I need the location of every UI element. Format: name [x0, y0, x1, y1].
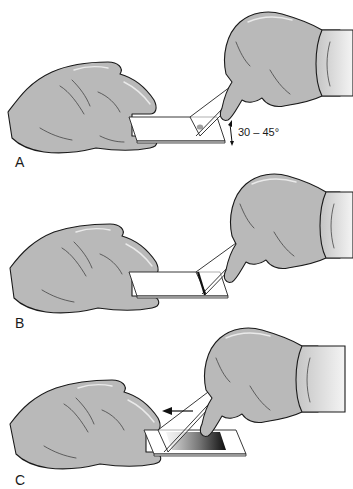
panel-a: 30 – 45° A	[0, 0, 353, 160]
right-hand-icon	[220, 12, 353, 120]
angle-annotation: 30 – 45°	[238, 127, 279, 138]
panel-a-illustration	[0, 0, 353, 160]
panel-c: C	[0, 320, 353, 489]
right-hand-icon	[200, 328, 345, 436]
left-hand-icon	[10, 380, 161, 469]
angle-arrow-icon	[228, 120, 234, 146]
left-hand-icon	[8, 62, 157, 153]
right-hand-icon	[224, 174, 353, 282]
panel-b: B	[0, 160, 353, 320]
panel-label-c: C	[15, 473, 25, 487]
left-hand-icon	[10, 224, 159, 313]
panel-b-illustration	[0, 160, 353, 320]
panel-c-illustration	[0, 320, 353, 489]
